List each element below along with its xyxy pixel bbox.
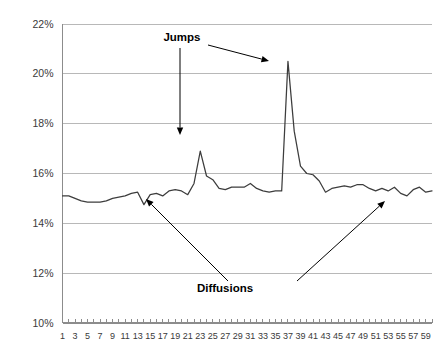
- y-tick-label-22: 22%: [32, 18, 53, 30]
- x-tick-label-25: 25: [208, 331, 218, 341]
- x-tick-label-51: 51: [371, 331, 381, 341]
- x-tick-label-19: 19: [170, 331, 180, 341]
- x-tick-label-11: 11: [120, 331, 129, 341]
- annotation-arrow-jumps-0-head: [177, 128, 183, 136]
- x-tick-label-17: 17: [158, 331, 168, 341]
- x-axis-tick-labels: 1357911131517192123252729313335373941434…: [60, 331, 431, 341]
- x-tick-label-29: 29: [233, 331, 243, 341]
- plot-gridlines: [63, 24, 433, 323]
- x-tick-label-21: 21: [183, 331, 193, 341]
- x-tick-label-49: 49: [358, 331, 368, 341]
- x-tick-label-47: 47: [346, 331, 356, 341]
- y-tick-label-16: 16%: [32, 167, 53, 179]
- annotation-leaders: [146, 45, 385, 281]
- y-tick-label-14: 14%: [32, 217, 53, 229]
- chart-page: 22%20%18%16%14%12%10% 135791113151719212…: [0, 0, 442, 352]
- annotation-label-jumps: Jumps: [163, 31, 200, 43]
- x-tick-label-3: 3: [73, 331, 78, 341]
- x-axis-tickmarks: [63, 319, 433, 323]
- annotation-label-diffusions: Diffusions: [197, 282, 253, 294]
- series-line-volatility: [63, 61, 433, 204]
- annotation-arrow-jumps-1-shaft: [208, 45, 262, 59]
- x-tick-label-39: 39: [295, 331, 305, 341]
- x-tick-label-9: 9: [110, 331, 115, 341]
- annotation-labels: JumpsDiffusions: [163, 31, 253, 294]
- x-tick-label-53: 53: [383, 331, 393, 341]
- y-axis-tick-labels: 22%20%18%16%14%12%10%: [32, 18, 53, 329]
- x-tick-label-35: 35: [270, 331, 280, 341]
- x-tick-label-13: 13: [133, 331, 143, 341]
- x-tick-label-1: 1: [60, 331, 65, 341]
- x-tick-label-33: 33: [258, 331, 268, 341]
- x-tick-label-31: 31: [245, 331, 255, 341]
- y-tick-label-20: 20%: [32, 67, 53, 79]
- x-tick-label-57: 57: [408, 331, 418, 341]
- x-tick-label-7: 7: [98, 331, 103, 341]
- x-tick-label-41: 41: [308, 331, 318, 341]
- x-tick-label-37: 37: [283, 331, 293, 341]
- x-tick-label-23: 23: [195, 331, 205, 341]
- x-tick-label-15: 15: [145, 331, 155, 341]
- volatility-jump-diffusion-chart: 22%20%18%16%14%12%10% 135791113151719212…: [0, 0, 442, 352]
- x-tick-label-59: 59: [421, 331, 431, 341]
- annotation-arrow-diffusions-1-shaft: [297, 206, 379, 281]
- data-series-line: [63, 61, 433, 204]
- annotation-arrow-diffusions-0-shaft: [151, 204, 228, 281]
- y-tick-label-10: 10%: [32, 317, 53, 329]
- x-tick-label-45: 45: [333, 331, 343, 341]
- x-tick-label-43: 43: [321, 331, 331, 341]
- x-tick-label-27: 27: [220, 331, 230, 341]
- x-tick-label-5: 5: [85, 331, 90, 341]
- y-tick-label-18: 18%: [32, 117, 53, 129]
- y-tick-label-12: 12%: [32, 267, 53, 279]
- annotation-arrow-jumps-1-head: [261, 56, 269, 62]
- x-tick-label-55: 55: [396, 331, 406, 341]
